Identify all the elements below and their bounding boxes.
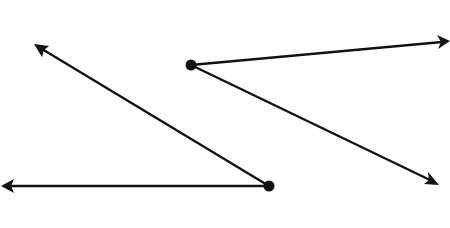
angle-diagram xyxy=(0,0,450,228)
ray-1b-up-left xyxy=(42,49,269,186)
ray-2b-down-right xyxy=(191,65,430,180)
angle-2 xyxy=(186,35,450,185)
angle-1 xyxy=(1,44,275,193)
vertex-1-point xyxy=(264,181,275,192)
vertex-2-point xyxy=(186,60,197,71)
ray-2a-right xyxy=(191,42,442,65)
